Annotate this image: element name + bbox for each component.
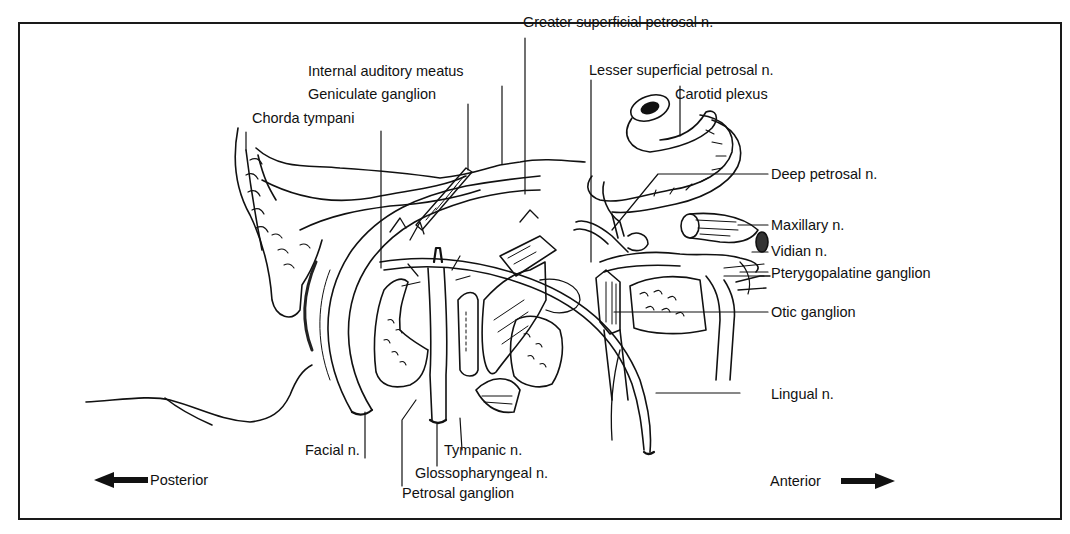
- leader-lines: [246, 38, 768, 486]
- label-petrosal-ganglion: Petrosal ganglion: [402, 485, 514, 501]
- label-deep-petrosal: Deep petrosal n.: [771, 166, 877, 182]
- posterior-direction-label: Posterior: [150, 472, 208, 488]
- middle-ear-drawing: [374, 210, 580, 412]
- posterior-arrow-icon: [94, 472, 148, 488]
- label-carotid-plexus: Carotid plexus: [675, 86, 768, 102]
- label-pterygopalatine-ganglion: Pterygopalatine ganglion: [771, 265, 931, 281]
- label-otic-ganglion: Otic ganglion: [771, 304, 856, 320]
- label-chorda-tympani: Chorda tympani: [252, 110, 354, 126]
- anterior-arrow-icon: [841, 473, 895, 489]
- chorda-lingual-drawing: [380, 258, 654, 454]
- maxillary-drawing: [681, 213, 768, 252]
- label-glossopharyngeal: Glossopharyngeal n.: [415, 465, 548, 481]
- label-internal-auditory-meatus: Internal auditory meatus: [308, 63, 464, 79]
- label-lingual: Lingual n.: [771, 386, 834, 402]
- label-greater-superficial-petrosal: Greater superficial petrosal n.: [523, 14, 713, 30]
- label-maxillary: Maxillary n.: [771, 217, 844, 233]
- label-geniculate-ganglion: Geniculate ganglion: [308, 86, 436, 102]
- label-tympanic: Tympanic n.: [444, 442, 522, 458]
- anterior-direction-label: Anterior: [770, 473, 821, 489]
- label-lesser-superficial-petrosal: Lesser superficial petrosal n.: [589, 62, 774, 78]
- carotid-drawing: [588, 90, 741, 238]
- label-vidian: Vidian n.: [771, 243, 827, 259]
- label-facial: Facial n.: [305, 442, 360, 458]
- ganglia-drawing: [574, 221, 770, 400]
